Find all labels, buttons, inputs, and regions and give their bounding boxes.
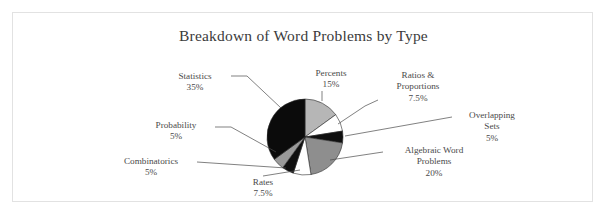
leader-line-overlapping bbox=[345, 117, 452, 136]
callout-combinatorics-value: 5% bbox=[108, 167, 194, 178]
callout-probability-label: Probability bbox=[156, 120, 197, 130]
callout-algebraic-value: 20% bbox=[385, 168, 483, 179]
callout-combinatorics: Combinatorics 5% bbox=[108, 156, 194, 179]
chart-figure: Breakdown of Word Problems by Type bbox=[0, 0, 607, 217]
callout-rates-value: 7.5% bbox=[238, 188, 288, 199]
callout-algebraic-label-line1: Algebraic Word bbox=[405, 145, 464, 155]
callout-overlapping-label-line1: Overlapping bbox=[469, 110, 515, 120]
callout-percents-label: Percents bbox=[315, 68, 346, 78]
pie-slices bbox=[267, 99, 343, 175]
callout-algebraic-word-problems: Algebraic Word Problems 20% bbox=[385, 145, 483, 179]
callout-algebraic-label-line2: Problems bbox=[417, 156, 452, 166]
callout-overlapping-label-line2: Sets bbox=[484, 121, 499, 131]
callout-overlapping-value: 5% bbox=[452, 133, 532, 144]
callout-combinatorics-label: Combinatorics bbox=[124, 156, 178, 166]
callout-ratios-value: 7.5% bbox=[380, 93, 456, 104]
callout-ratios-label-line2: Proportions bbox=[397, 81, 440, 91]
callout-overlapping-sets: Overlapping Sets 5% bbox=[452, 110, 532, 144]
callout-statistics-value: 35% bbox=[162, 82, 228, 93]
pie-chart bbox=[0, 0, 607, 217]
callout-probability-value: 5% bbox=[140, 131, 212, 142]
callout-probability: Probability 5% bbox=[140, 120, 212, 143]
leader-line-ratios bbox=[338, 100, 378, 124]
leader-line-statistics bbox=[231, 76, 281, 108]
callout-ratios-label-line1: Ratios & bbox=[402, 70, 435, 80]
callout-rates-label: Rates bbox=[253, 177, 273, 187]
callout-statistics: Statistics 35% bbox=[162, 71, 228, 94]
callout-percents: Percents 15% bbox=[302, 68, 360, 91]
callout-ratios-proportions: Ratios & Proportions 7.5% bbox=[380, 70, 456, 104]
callout-rates: Rates 7.5% bbox=[238, 177, 288, 200]
pie-slice-algebraic-word-problems[interactable] bbox=[305, 137, 343, 175]
leader-line-combinatorics bbox=[197, 162, 286, 168]
callout-statistics-label: Statistics bbox=[178, 71, 211, 81]
callout-percents-value: 15% bbox=[302, 79, 360, 90]
